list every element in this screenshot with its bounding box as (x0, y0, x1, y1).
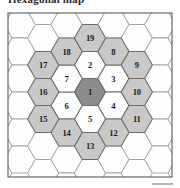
hex-label-12: 12 (109, 128, 117, 138)
hex-label-10: 10 (133, 87, 141, 97)
hex-label-1: 1 (88, 87, 92, 97)
hex-label-2: 2 (88, 60, 92, 70)
hex-label-14: 14 (62, 128, 71, 138)
hex-map-figure: Hexagonal map 12345678910111213141516171… (0, 0, 180, 188)
background-hex (145, 0, 176, 11)
hex-label-9: 9 (135, 60, 139, 70)
hex-label-18: 18 (62, 47, 71, 57)
hex-label-13: 13 (86, 141, 94, 151)
hex-label-3: 3 (111, 74, 115, 84)
hex-label-17: 17 (39, 60, 48, 70)
hex-label-16: 16 (39, 87, 48, 97)
hex-board: 12345678910111213141516171819 (0, 0, 180, 188)
corner-mark (152, 183, 173, 185)
hex-label-15: 15 (39, 114, 47, 124)
background-hex (98, 0, 129, 11)
hex-label-11: 11 (133, 114, 141, 124)
hex-label-5: 5 (88, 114, 92, 124)
background-hex (4, 0, 35, 11)
hex-label-19: 19 (86, 33, 94, 43)
background-hex (51, 0, 82, 11)
